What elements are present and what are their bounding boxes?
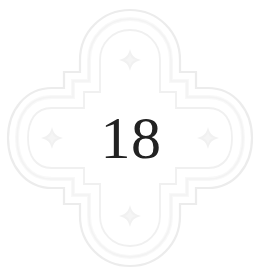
chapter-heading-page: 18 <box>0 0 260 276</box>
chapter-number: 18 <box>0 0 260 276</box>
